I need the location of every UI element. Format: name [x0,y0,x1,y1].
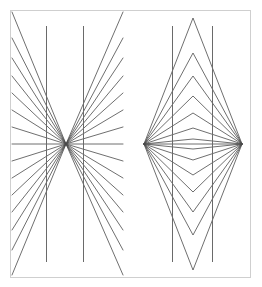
illusion-figure-root [0,0,262,287]
canvas-background [0,0,262,287]
illusion-svg [0,0,262,287]
